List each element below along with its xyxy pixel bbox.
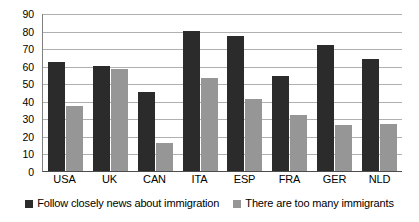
legend-label-0: Follow closely news about immigration — [37, 198, 219, 209]
y-tick-label-90: 90 — [23, 9, 34, 20]
bar-fra-series-0[interactable] — [272, 76, 289, 171]
bar-ita-series-0[interactable] — [183, 31, 200, 171]
bar-can-series-1[interactable] — [156, 143, 173, 171]
bar-ita-series-1[interactable] — [201, 78, 218, 171]
x-tick-label-usa: USA — [42, 174, 87, 185]
bar-usa-series-0[interactable] — [48, 62, 65, 171]
x-tick-label-uk: UK — [87, 174, 132, 185]
y-tick-label-20: 20 — [23, 132, 34, 143]
y-tick-label-40: 40 — [23, 97, 34, 108]
chart-legend: Follow closely news about immigrationThe… — [0, 198, 419, 209]
bar-usa-series-1[interactable] — [66, 106, 83, 171]
bar-uk-series-0[interactable] — [93, 66, 110, 171]
bar-ger-series-1[interactable] — [335, 125, 352, 171]
y-tick-label-70: 70 — [23, 44, 34, 55]
x-tick-label-can: CAN — [132, 174, 177, 185]
legend-swatch-icon-1 — [233, 200, 241, 208]
bar-nld-series-1[interactable] — [380, 124, 397, 171]
gridline-0 — [43, 172, 402, 173]
legend-label-1: There are too many immigrants — [245, 198, 394, 209]
bar-ger-series-0[interactable] — [317, 45, 334, 171]
bar-group-uk — [88, 14, 133, 171]
bar-group-nld — [357, 14, 402, 171]
y-tick-label-60: 60 — [23, 61, 34, 72]
x-tick-label-ita: ITA — [177, 174, 222, 185]
bar-fra-series-1[interactable] — [290, 115, 307, 171]
y-tick-label-0: 0 — [28, 167, 34, 178]
x-tick-label-fra: FRA — [267, 174, 312, 185]
y-tick-label-80: 80 — [23, 26, 34, 37]
plot-area — [42, 14, 402, 172]
y-axis: 0102030405060708090 — [0, 0, 40, 172]
bar-group-usa — [43, 14, 88, 171]
bar-nld-series-0[interactable] — [362, 59, 379, 171]
bar-chart: 0102030405060708090 USAUKCANITAESPFRAGER… — [0, 0, 419, 222]
x-tick-label-nld: NLD — [357, 174, 402, 185]
y-tick-label-30: 30 — [23, 114, 34, 125]
y-tick-label-50: 50 — [23, 79, 34, 90]
y-tick-label-10: 10 — [23, 149, 34, 160]
legend-swatch-icon-0 — [25, 200, 33, 208]
bar-esp-series-1[interactable] — [245, 99, 262, 171]
bar-group-ger — [312, 14, 357, 171]
bar-group-esp — [223, 14, 268, 171]
bar-group-can — [133, 14, 178, 171]
bar-uk-series-1[interactable] — [111, 69, 128, 171]
bars-layer — [43, 14, 402, 171]
bar-can-series-0[interactable] — [138, 92, 155, 171]
legend-item-1[interactable]: There are too many immigrants — [233, 198, 394, 209]
bar-group-fra — [267, 14, 312, 171]
bar-group-ita — [178, 14, 223, 171]
x-tick-label-ger: GER — [312, 174, 357, 185]
x-tick-label-esp: ESP — [222, 174, 267, 185]
bar-esp-series-0[interactable] — [227, 36, 244, 171]
legend-item-0[interactable]: Follow closely news about immigration — [25, 198, 219, 209]
x-axis: USAUKCANITAESPFRAGERNLD — [42, 174, 402, 185]
